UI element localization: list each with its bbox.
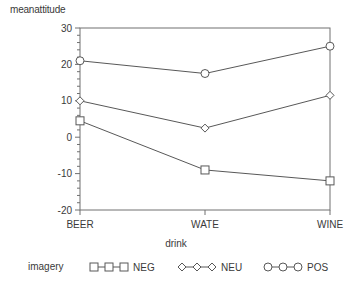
- svg-text:WINE: WINE: [317, 219, 343, 230]
- legend-marker-square: [88, 260, 130, 274]
- svg-text:10: 10: [61, 95, 73, 106]
- svg-text:WATE: WATE: [191, 219, 219, 230]
- legend-label-neu: NEU: [221, 262, 242, 273]
- svg-text:30: 30: [61, 23, 73, 34]
- legend-title: imagery: [28, 261, 64, 272]
- svg-text:-20: -20: [58, 205, 73, 216]
- legend-entry-neu[interactable]: NEU: [176, 258, 242, 276]
- legend-marker-diamond: [176, 260, 218, 274]
- legend-label-pos: POS: [307, 262, 328, 273]
- y-tick-label-group: 3020100-10-20: [58, 23, 73, 216]
- legend-label-neg: NEG: [133, 262, 155, 273]
- data-series-group: [76, 42, 334, 185]
- legend-marker-circle: [262, 260, 304, 274]
- plot-frame: [80, 28, 330, 210]
- series-neu: [76, 91, 334, 132]
- x-axis-title: drink: [0, 238, 352, 249]
- legend-entry-neg[interactable]: NEG: [88, 258, 155, 276]
- chart-legend: imagery NEG NEU POS: [0, 258, 352, 278]
- svg-text:20: 20: [61, 59, 73, 70]
- x-tick-mark-group: [80, 210, 330, 215]
- profile-plot-chart: meanattitude 3020100-10-20 BEERWATEWINE …: [0, 0, 352, 290]
- plot-area: 3020100-10-20 BEERWATEWINE: [0, 0, 352, 236]
- series-pos: [76, 42, 334, 77]
- svg-text:-10: -10: [58, 168, 73, 179]
- legend-entry-pos[interactable]: POS: [262, 258, 328, 276]
- x-tick-label-group: BEERWATEWINE: [66, 219, 343, 230]
- svg-text:BEER: BEER: [66, 219, 93, 230]
- svg-text:0: 0: [66, 132, 72, 143]
- y-axis-title: meanattitude: [10, 4, 65, 15]
